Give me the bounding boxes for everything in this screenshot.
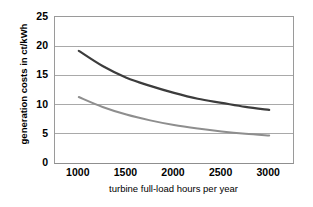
data-series-group: [79, 51, 269, 136]
x-axis-tick-labels: 10001500200025003000: [54, 166, 293, 182]
series-line-upper-curve: [79, 51, 269, 110]
x-tick-label: 2500: [209, 166, 232, 179]
y-tick-label: 5: [22, 128, 48, 138]
x-tick-label: 2000: [161, 166, 184, 179]
plot-area: [54, 16, 294, 164]
y-tick-label: 20: [22, 40, 48, 50]
y-tick-label: 25: [22, 11, 48, 21]
x-tick-label: 1500: [114, 166, 137, 179]
x-axis-title: turbine full-load hours per year: [54, 183, 293, 194]
chart-container: generation costs in ct/kWh 0510152025 10…: [0, 0, 313, 207]
y-tick-label: 10: [22, 99, 48, 109]
series-line-lower-curve: [79, 97, 269, 136]
plot-svg: [55, 17, 293, 163]
y-axis-tick-labels: 0510152025: [22, 0, 48, 207]
y-tick-label: 15: [22, 69, 48, 79]
y-tick-label: 0: [22, 157, 48, 167]
x-tick-label: 1000: [66, 166, 89, 179]
x-tick-label: 3000: [257, 166, 280, 179]
gridlines: [55, 17, 293, 163]
